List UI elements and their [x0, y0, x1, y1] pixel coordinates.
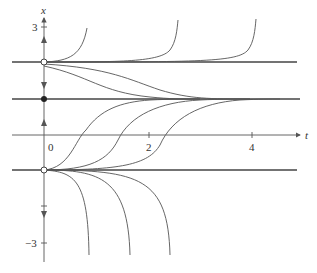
open-circle-icon — [41, 59, 47, 65]
solution-curves — [44, 19, 280, 255]
x-axis-label: x — [40, 4, 46, 16]
t-axis: t 0 2 4 — [12, 129, 309, 153]
open-circle-icon — [41, 167, 47, 173]
t-tick-label-0: 0 — [48, 141, 54, 153]
arrow-up-icon — [41, 119, 47, 126]
arrow-up-icon — [41, 36, 47, 43]
phase-diagram: t 0 2 4 x 3 −3 — [0, 0, 317, 273]
equilibrium-lines — [12, 62, 300, 170]
t-tick-label-4: 4 — [249, 141, 255, 153]
arrow-down-icon — [41, 82, 47, 89]
x-tick-label-3: 3 — [32, 21, 38, 33]
arrow-down-icon — [41, 211, 47, 218]
t-tick-label-2: 2 — [146, 141, 152, 153]
x-tick-label-neg3: −3 — [25, 237, 37, 249]
filled-circle-icon — [41, 96, 47, 102]
t-axis-label: t — [305, 129, 309, 141]
